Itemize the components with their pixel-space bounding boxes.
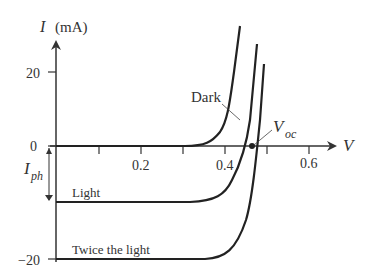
voc-point xyxy=(249,143,255,149)
x-tick-label-0.4: 0.4 xyxy=(216,158,234,173)
x-axis-symbol: V xyxy=(343,136,356,155)
light-curve xyxy=(56,44,257,202)
voc-subscript: oc xyxy=(285,127,297,141)
y-axis-symbol: I xyxy=(39,18,46,35)
dark-label: Dark xyxy=(191,89,221,105)
dark-curve xyxy=(56,26,240,146)
twice-light-label: Twice the light xyxy=(72,242,150,257)
y-axis-unit: (mA) xyxy=(55,19,88,36)
iph-subscript: ph xyxy=(30,169,43,183)
y-tick-label-neg20: −20 xyxy=(18,253,40,268)
iph-label: I xyxy=(23,159,31,178)
x-tick-label-0.6: 0.6 xyxy=(300,156,318,171)
dark-leader-line xyxy=(222,104,240,120)
iv-characteristic-chart: I (mA) V 20 0 −20 0.2 0.4 0.6 V oc Dark … xyxy=(0,0,371,279)
y-tick-label-0: 0 xyxy=(30,139,37,154)
y-tick-label-20: 20 xyxy=(26,66,40,81)
voc-leader-line xyxy=(254,130,272,145)
x-tick-label-0.2: 0.2 xyxy=(132,158,150,173)
light-label: Light xyxy=(72,185,101,200)
iph-arrow-top-head xyxy=(46,148,52,154)
